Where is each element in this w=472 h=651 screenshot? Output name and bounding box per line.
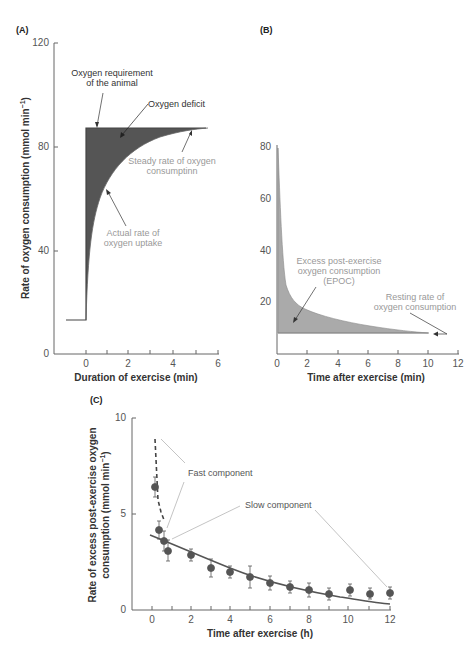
svg-text:6: 6: [267, 614, 273, 625]
svg-text:8: 8: [306, 614, 312, 625]
svg-text:40: 40: [260, 245, 272, 256]
svg-text:0: 0: [120, 604, 126, 615]
panel-a-x-ticks: 0 2 4 6: [83, 350, 221, 369]
panel-a-x-title: Duration of exercise (min): [74, 372, 197, 383]
data-point: [326, 588, 333, 600]
data-point: [367, 588, 374, 599]
panel-b-x-title: Time after exercise (min): [307, 372, 425, 383]
svg-text:2: 2: [304, 358, 310, 369]
arrow-icon: [106, 189, 111, 195]
svg-text:6: 6: [215, 358, 221, 369]
annotation-oxygen-deficit: Oxygen deficit: [148, 99, 206, 109]
panel-c-y-ticks: 10 5 0: [115, 412, 136, 615]
slow-component-curve: [150, 535, 390, 604]
svg-text:2: 2: [188, 614, 194, 625]
arrow-icon: [433, 332, 438, 337]
panel-a-y-title: Rate of oxygen consumption (mmol min−1): [19, 97, 31, 299]
annotation-slow-component: Slow component: [245, 500, 312, 510]
svg-text:4: 4: [335, 358, 341, 369]
fast-pointer-top: [161, 439, 185, 463]
data-point: [156, 521, 163, 539]
data-point: [306, 583, 313, 597]
panel-c-y-title-line2: consumption (mmol min−1): [99, 451, 111, 578]
annotation-oxygen-requirement: Oxygen requirementof the animal: [71, 68, 153, 88]
data-points: [152, 477, 394, 600]
fast-pointer-bottom: [167, 482, 184, 528]
requirement-pointer: [97, 93, 103, 126]
panel-b: (B) 80 60 40 20 0 2 4 6 8 10 12 Time: [260, 25, 464, 383]
svg-text:120: 120: [32, 37, 49, 48]
data-point: [387, 587, 394, 599]
panel-c: (C) 10 5 0 0 2 4 6: [87, 395, 396, 639]
actual-pointer: [108, 192, 126, 226]
panel-b-label: (B): [260, 25, 273, 35]
resting-pointer: [410, 313, 447, 334]
data-point: [287, 581, 294, 593]
annotation-steady-rate: Steady rate of oxygenconsumptinn: [128, 156, 216, 176]
svg-text:2: 2: [125, 358, 131, 369]
panel-c-x-ticks: 0 2 4 6 8 10 12: [149, 606, 396, 625]
svg-text:8: 8: [395, 358, 401, 369]
svg-text:4: 4: [227, 614, 233, 625]
data-point: [267, 576, 274, 590]
svg-text:20: 20: [260, 296, 272, 307]
svg-text:60: 60: [260, 193, 272, 204]
figure-canvas: (A) 0 40 80 120 0 2: [0, 0, 472, 651]
svg-text:4: 4: [170, 358, 176, 369]
svg-text:6: 6: [365, 358, 371, 369]
svg-text:12: 12: [452, 358, 464, 369]
panel-b-x-ticks: 0 2 4 6 8 10 12: [274, 350, 464, 369]
panel-c-label: (C): [90, 395, 103, 405]
panel-a-label: (A): [16, 25, 29, 35]
slow-pointer-left: [172, 506, 240, 539]
svg-text:0: 0: [83, 358, 89, 369]
panel-c-x-title: Time after exercise (h): [207, 628, 313, 639]
panel-a: (A) 0 40 80 120 0 2: [16, 25, 221, 383]
annotation-actual-uptake: Actual rate ofoxygen uptake: [104, 228, 163, 248]
annotation-fast-component: Fast component: [188, 468, 253, 478]
fast-component-curve: [155, 439, 164, 520]
svg-text:80: 80: [260, 141, 272, 152]
arrow-icon: [95, 122, 99, 128]
svg-text:80: 80: [38, 141, 50, 152]
svg-text:12: 12: [384, 614, 396, 625]
svg-text:10: 10: [342, 614, 354, 625]
svg-text:10: 10: [422, 358, 434, 369]
svg-text:0: 0: [43, 348, 49, 359]
data-point: [347, 584, 354, 596]
svg-text:40: 40: [38, 245, 50, 256]
slow-pointer-right: [315, 510, 387, 587]
svg-text:5: 5: [120, 508, 126, 519]
data-point: [152, 477, 159, 497]
panel-c-y-title: Rate of excess post-exercise oxygen: [87, 427, 98, 602]
svg-text:0: 0: [274, 358, 280, 369]
svg-text:10: 10: [115, 412, 127, 423]
annotation-resting-rate: Resting rate ofoxygen consumption: [374, 292, 457, 312]
steady-pointer: [182, 132, 191, 152]
annotation-epoc: Excess post-exerciseoxygen consumption(E…: [296, 256, 381, 286]
svg-text:0: 0: [149, 614, 155, 625]
data-point: [247, 566, 254, 588]
panel-b-y-ticks: 80 60 40 20: [260, 141, 272, 307]
